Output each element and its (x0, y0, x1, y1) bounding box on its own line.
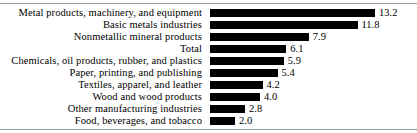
bar (210, 9, 375, 17)
chart-row: Metal products, machinery, and equipment… (0, 7, 417, 19)
bar (210, 33, 309, 41)
category-label: Food, beverages, and tobacco (0, 115, 210, 127)
category-label: Metal products, machinery, and equipment (0, 7, 210, 19)
category-label: Basic metals industries (0, 19, 210, 31)
bottom-divider-rule (0, 129, 417, 130)
bar (210, 45, 286, 53)
category-label: Wood and wood products (0, 91, 210, 103)
chart-row: Textiles, apparel, and leather 4.2 (0, 79, 417, 91)
bar-zone: 4.0 (210, 91, 417, 103)
bar-chart-figure: Metal products, machinery, and equipment… (0, 0, 417, 133)
bar-zone: 6.1 (210, 43, 417, 55)
category-label: Other manufacturing industries (0, 103, 210, 115)
bar-zone: 13.2 (210, 7, 417, 19)
bar-value-label: 11.8 (358, 19, 380, 31)
chart-row: Wood and wood products 4.0 (0, 91, 417, 103)
bar-value-label: 4.0 (260, 91, 277, 103)
bar (210, 69, 278, 77)
bar (210, 105, 245, 113)
bar-value-label: 5.4 (278, 67, 295, 79)
category-label: Paper, printing, and publishing (0, 67, 210, 79)
bar-value-label: 7.9 (309, 31, 326, 43)
chart-row: Paper, printing, and publishing 5.4 (0, 67, 417, 79)
bar-value-label: 2.8 (245, 103, 262, 115)
bar-zone: 7.9 (210, 31, 417, 43)
bar-value-label: 5.9 (284, 55, 301, 67)
bar-value-label: 6.1 (286, 43, 303, 55)
bar (210, 117, 235, 125)
category-label: Total (0, 43, 210, 55)
bar-zone: 2.8 (210, 103, 417, 115)
chart-row: Food, beverages, and tobacco 2.0 (0, 115, 417, 127)
chart-row: Basic metals industries 11.8 (0, 19, 417, 31)
top-divider-rule (0, 3, 417, 4)
bar-zone: 5.9 (210, 55, 417, 67)
bar-value-label: 2.0 (235, 115, 252, 127)
bar (210, 81, 263, 89)
chart-row: Chemicals, oil products, rubber, and pla… (0, 55, 417, 67)
bar-zone: 5.4 (210, 67, 417, 79)
bar (210, 57, 284, 65)
bar-zone: 2.0 (210, 115, 417, 127)
chart-row: Nonmetallic mineral products 7.9 (0, 31, 417, 43)
bar-value-label: 13.2 (375, 7, 397, 19)
category-label: Chemicals, oil products, rubber, and pla… (0, 55, 210, 67)
bar (210, 93, 260, 101)
bar-zone: 11.8 (210, 19, 417, 31)
category-label: Textiles, apparel, and leather (0, 79, 210, 91)
bar (210, 21, 358, 29)
chart-row: Total 6.1 (0, 43, 417, 55)
chart-plot-area: Metal products, machinery, and equipment… (0, 7, 417, 127)
chart-row: Other manufacturing industries 2.8 (0, 103, 417, 115)
bar-value-label: 4.2 (263, 79, 280, 91)
category-label: Nonmetallic mineral products (0, 31, 210, 43)
bar-zone: 4.2 (210, 79, 417, 91)
